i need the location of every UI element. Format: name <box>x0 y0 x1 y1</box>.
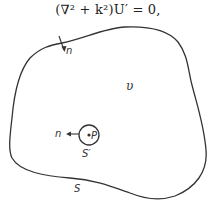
inner-normal-arrow-icon <box>66 132 79 137</box>
outer-surface-label: S <box>74 183 81 194</box>
outer-normal-label: n <box>66 45 72 56</box>
outer-surface-s-curve <box>10 27 207 199</box>
diagram-canvas: (∇² + k²)U′ = 0, n υ P n S′ S <box>0 0 216 203</box>
volume-label: υ <box>126 79 133 93</box>
inner-surface-label: S′ <box>82 148 91 159</box>
point-p-label: P <box>91 130 98 141</box>
inner-normal-label: n <box>55 128 61 139</box>
diagram-figure: n υ P n S′ S <box>0 0 216 203</box>
